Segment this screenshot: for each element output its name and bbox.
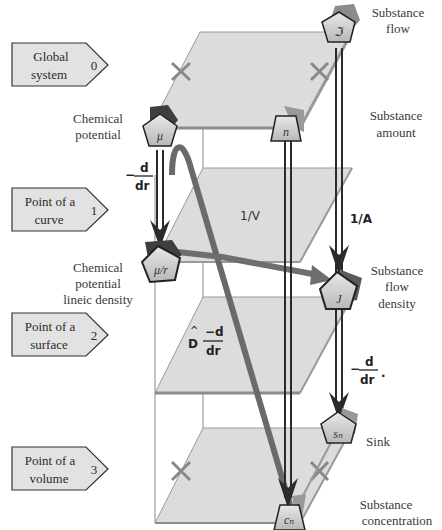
node-cn-symbol: cₙ	[284, 513, 294, 527]
label-flow-1: Substance	[372, 5, 425, 20]
level-tag-0: Global system 0	[12, 43, 108, 86]
label-J-3: density	[378, 296, 416, 311]
node-J-symbol: J	[336, 292, 342, 306]
label-mu-1: Chemical	[73, 111, 123, 126]
svg-text:d: d	[140, 161, 149, 175]
label-mur-3: lineic density	[63, 292, 133, 307]
operator-one-over-A: 1/A	[350, 212, 373, 226]
label-J-1: Substance	[371, 263, 424, 278]
level-tag-1: Point of a curve 1	[12, 188, 108, 231]
arrow-mu-to-mur	[150, 150, 170, 248]
node-mu-symbol: μ	[156, 129, 163, 143]
operator-one-over-V: 1/V	[240, 209, 261, 223]
node-sn-symbol: sₙ	[333, 427, 343, 441]
svg-text:dr: dr	[135, 179, 150, 193]
svg-text:0: 0	[91, 58, 98, 73]
svg-text:Point of a: Point of a	[25, 194, 76, 209]
label-cn-2: concentration	[362, 513, 433, 528]
svg-text:volume: volume	[30, 471, 69, 486]
label-cn-1: Substance	[360, 497, 413, 512]
svg-text:·: ·	[381, 369, 386, 383]
operator-neg-d-dr-right: − d dr ·	[350, 355, 386, 387]
svg-text:−d: −d	[205, 325, 224, 339]
label-n-2: amount	[377, 125, 416, 140]
label-n-1: Substance	[370, 108, 423, 123]
diagram-canvas: μ n ℑ μ/r J sₙ cₙ Global system 0	[0, 0, 442, 530]
node-mu-r-symbol: μ/r	[153, 263, 168, 277]
svg-text:Point of a: Point of a	[25, 319, 76, 334]
label-mur-2: potential	[75, 276, 121, 291]
svg-text:system: system	[31, 67, 67, 82]
svg-text:2: 2	[91, 328, 98, 343]
svg-text:−: −	[350, 362, 360, 376]
level-tag-3: Point of a volume 3	[12, 447, 108, 490]
label-mu-2: potential	[75, 127, 121, 142]
node-sn[interactable]: sₙ	[321, 408, 358, 443]
label-flow-2: flow	[386, 21, 410, 36]
svg-text:1: 1	[91, 203, 98, 218]
label-sn: Sink	[366, 434, 390, 449]
svg-text:−: −	[125, 168, 135, 182]
node-n-symbol: n	[283, 125, 289, 139]
svg-text:dr: dr	[206, 344, 221, 358]
label-J-2: flow	[385, 279, 409, 294]
svg-text:d: d	[365, 355, 374, 369]
svg-text:Global: Global	[33, 49, 69, 64]
node-mu-r[interactable]: μ/r	[142, 240, 182, 282]
svg-text:3: 3	[91, 462, 98, 477]
svg-text:^: ^	[190, 325, 198, 336]
level-tag-2: Point of a surface 2	[12, 313, 108, 356]
svg-text:D: D	[188, 337, 198, 351]
svg-text:dr: dr	[360, 373, 375, 387]
node-flow[interactable]: ℑ	[322, 4, 360, 42]
svg-text:curve: curve	[35, 212, 64, 227]
plane-level-0	[150, 32, 352, 128]
arrow-flow-to-J	[329, 48, 349, 275]
operator-neg-d-dr-left: − d dr	[125, 161, 153, 193]
svg-text:surface: surface	[30, 337, 68, 352]
svg-text:Point of a: Point of a	[25, 453, 76, 468]
label-mur-1: Chemical	[73, 260, 123, 275]
